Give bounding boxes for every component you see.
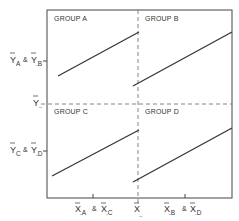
svg-text:&: & — [23, 146, 28, 153]
line-group-d — [133, 128, 232, 182]
svg-text:.B: .B — [169, 209, 175, 216]
svg-text:C: C — [16, 150, 21, 157]
svg-text:..: .. — [39, 102, 43, 109]
group-a-label: GROUP A — [54, 15, 87, 22]
svg-text:.B: .B — [36, 60, 42, 67]
line-group-c — [52, 130, 139, 176]
x-label-grand: X .. — [134, 203, 143, 218]
line-group-a — [58, 32, 139, 76]
svg-text:.D: .D — [195, 209, 202, 216]
svg-text:&: & — [92, 205, 97, 212]
svg-text:..: .. — [139, 211, 143, 218]
x-label-ac: X .A & X .C — [75, 203, 113, 216]
svg-text:&: & — [182, 205, 187, 212]
svg-text:A: A — [16, 60, 21, 67]
x-label-bd: X .B & X .D — [164, 203, 202, 216]
svg-text:.C: .C — [106, 209, 113, 216]
y-label-cd: Y C & Y .D — [10, 143, 43, 157]
svg-text:.D: .D — [36, 150, 43, 157]
group-c-label: GROUP C — [54, 108, 88, 115]
svg-text:&: & — [23, 56, 28, 63]
group-d-label: GROUP D — [145, 108, 179, 115]
y-label-grand: Y .. — [33, 96, 43, 109]
svg-text:.A: .A — [80, 209, 87, 216]
group-b-label: GROUP B — [145, 15, 179, 22]
y-label-ab: Y A & Y .B — [10, 53, 42, 67]
line-group-b — [133, 32, 232, 86]
quadrant-diagram: GROUP A GROUP B GROUP C GROUP D Y A & Y … — [0, 0, 239, 221]
